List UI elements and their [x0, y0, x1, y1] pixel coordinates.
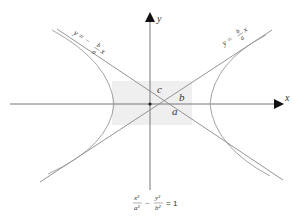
- svg-text:y²: y²: [154, 194, 161, 202]
- svg-text:y = −: y = −: [71, 28, 92, 46]
- y-axis-arrow-icon: [145, 12, 155, 22]
- svg-text:y =: y =: [219, 34, 234, 48]
- label-a: a: [172, 105, 178, 117]
- origin-point: [148, 102, 151, 105]
- svg-text:a²: a²: [134, 204, 141, 212]
- hyperbola-diagram: y x c b a y = − b a x y = b a x x² a² − …: [0, 0, 302, 222]
- label-c: c: [157, 83, 162, 95]
- x-axis-label: x: [284, 92, 290, 103]
- y-axis-label: y: [156, 13, 162, 24]
- x-axis-arrow-icon: [274, 99, 284, 109]
- shaded-region: [112, 81, 192, 125]
- svg-text:a: a: [91, 48, 98, 56]
- svg-text:−: −: [145, 199, 150, 208]
- svg-text:x: x: [98, 46, 107, 56]
- hyperbola-right-branch: [210, 35, 270, 176]
- svg-text:a: a: [239, 34, 246, 42]
- hyperbola-equation: x² a² − y² b² = 1: [133, 194, 178, 212]
- asymptote-negative-label: y = − b a x: [69, 26, 109, 60]
- svg-text:b²: b²: [155, 204, 162, 212]
- svg-text:= 1: = 1: [166, 199, 178, 208]
- svg-text:x²: x²: [133, 194, 140, 202]
- label-b: b: [179, 91, 185, 103]
